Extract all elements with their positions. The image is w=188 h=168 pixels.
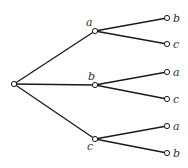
leaf-label-c-a: a xyxy=(173,120,180,133)
edge-a-c xyxy=(95,31,167,44)
root-node xyxy=(11,81,16,86)
node-a xyxy=(92,28,97,33)
tree-diagram: abcbcacab xyxy=(0,0,188,168)
node-label-b: b xyxy=(88,70,95,83)
edges xyxy=(14,18,167,153)
edge-c-b xyxy=(95,139,167,153)
leaf-node-b-a xyxy=(164,69,169,74)
node-b xyxy=(92,82,97,87)
edge-c-a xyxy=(95,126,167,139)
leaf-label-a-c: c xyxy=(173,38,179,51)
edge-b-c xyxy=(95,85,167,99)
leaf-node-b-c xyxy=(164,96,169,101)
leaf-node-c-a xyxy=(164,123,169,128)
leaf-label-c-b: b xyxy=(173,147,180,160)
leaf-label-b-c: c xyxy=(173,93,179,106)
edge-b-a xyxy=(95,72,167,85)
edge-root-a xyxy=(14,31,95,84)
edge-root-c xyxy=(14,84,95,139)
node-c xyxy=(92,136,97,141)
leaf-node-a-b xyxy=(164,15,169,20)
edge-root-b xyxy=(14,84,95,85)
leaf-label-a-b: b xyxy=(173,12,180,25)
edge-a-b xyxy=(95,18,167,31)
leaf-node-a-c xyxy=(164,41,169,46)
leaf-label-b-a: a xyxy=(173,66,180,79)
leaf-node-c-b xyxy=(164,150,169,155)
node-label-c: c xyxy=(87,140,93,153)
node-label-a: a xyxy=(86,16,93,29)
